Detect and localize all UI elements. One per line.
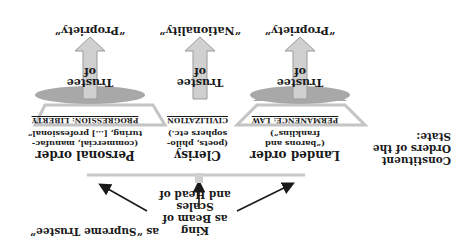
trustee-text: Trustee [55,77,125,88]
target-label-landed: “Propriety” [250,24,350,37]
order-desc: franklins”) [235,129,355,139]
order-name: Landed order [235,148,355,161]
trustee-text: of [265,66,335,77]
order-desc: sophers etc.) [155,129,240,139]
band-label-personal: PROGRESSION: LIBERTY [20,116,150,125]
trustee-text: of [165,66,235,77]
order-landed: Landed order (“barons and franklins”) [235,129,355,161]
order-desc: turing, […] professional” [20,129,150,139]
target-label-clerisy: “Nationality” [145,24,255,37]
order-personal: Personal order (commercial, manufac- tur… [20,129,150,161]
trustee-text: Trustee [265,77,335,88]
diagram-canvas: Constituent Orders of the State: King as… [0,0,465,251]
target-label-personal: “Propriety” [40,24,140,37]
order-desc: (poets, philo- [155,139,240,149]
trustee-text: Trustee [165,77,235,88]
trustee-text: of [55,66,125,77]
connector-arrows [0,0,465,251]
trustee-label-clerisy: Trustee of [165,66,235,88]
order-name: Personal order [20,148,150,161]
band-label-clerisy: CIVILIZATION [155,116,240,125]
trustee-label-landed: Trustee of [265,66,335,88]
order-clerisy: Clerisy (poets, philo- sophers etc.) [155,129,240,161]
band-label-landed: PERMANENCE: LAW [235,116,355,125]
order-desc: (commercial, manufac- [20,139,150,149]
order-desc: (“barons and [235,139,355,149]
order-name: Clerisy [155,148,240,161]
trustee-label-personal: Trustee of [55,66,125,88]
